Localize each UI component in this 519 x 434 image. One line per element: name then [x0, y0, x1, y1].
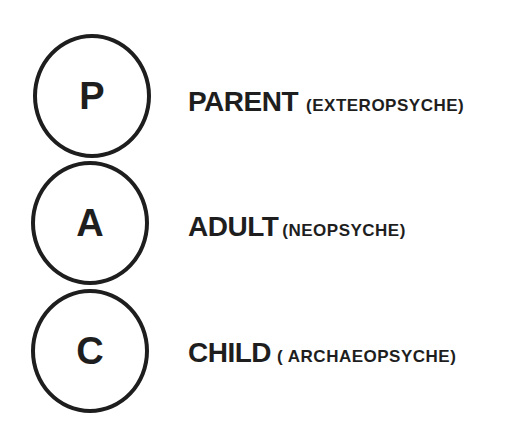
child-label-main: CHILD [188, 337, 271, 369]
parent-label-sub: (EXTEROPSYCHE) [306, 96, 464, 116]
adult-letter: A [76, 204, 103, 242]
adult-label-main: ADULT [188, 211, 278, 243]
child-circle: C [31, 289, 149, 413]
adult-label-sub: (NEOPSYCHE) [282, 221, 406, 241]
adult-label: ADULT (NEOPSYCHE) [188, 211, 406, 243]
adult-circle: A [31, 161, 149, 285]
parent-letter: P [79, 77, 104, 115]
child-letter: C [76, 332, 103, 370]
parent-label-main: PARENT [188, 86, 298, 118]
parent-circle: P [33, 34, 151, 158]
child-label-sub: ( ARCHAEOPSYCHE) [277, 347, 456, 367]
parent-label: PARENT (EXTEROPSYCHE) [188, 86, 464, 118]
child-label: CHILD ( ARCHAEOPSYCHE) [188, 337, 456, 369]
